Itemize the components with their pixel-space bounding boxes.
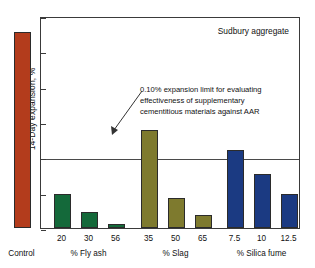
- x-axis-tick-label: 56: [111, 234, 120, 243]
- y-axis-tick: [41, 124, 46, 125]
- plot-area: Sudbury aggregate 0.10% expansion limit …: [40, 17, 300, 229]
- y-axis-tick: [41, 159, 46, 160]
- limit-annotation-text: 0.10% expansion limit for evaluating eff…: [140, 85, 315, 117]
- expansion-limit-line: [41, 159, 299, 160]
- x-axis-group-label: % Silica fume: [237, 249, 287, 258]
- x-axis-tick-label: 10: [257, 234, 266, 243]
- x-axis-group-label: Control: [8, 249, 34, 258]
- bar-12.5: [281, 194, 298, 228]
- aggregate-label: Sudbury aggregate: [218, 26, 289, 36]
- bar-7.5: [227, 150, 244, 228]
- x-axis-tick-label: 20: [57, 234, 66, 243]
- bar-10: [254, 174, 271, 228]
- bar-Control: [14, 32, 31, 228]
- bar-20: [54, 194, 71, 228]
- bar-65: [195, 215, 212, 228]
- expansion-bar-chart: 14-Day expansion, % Sudbury aggregate 0.…: [0, 0, 315, 268]
- x-axis-tick-label: 50: [171, 234, 180, 243]
- y-axis-tick: [41, 195, 46, 196]
- x-axis-group-label: % Fly ash: [71, 249, 107, 258]
- bar-56: [108, 224, 125, 228]
- x-axis-tick-label: 35: [144, 234, 153, 243]
- y-axis-tick: [41, 53, 46, 54]
- y-axis-tick: [41, 89, 46, 90]
- x-axis-tick-label: 12.5: [281, 234, 297, 243]
- x-axis-group-label: % Slag: [163, 249, 189, 258]
- x-axis-tick-label: 65: [198, 234, 207, 243]
- bar-35: [141, 130, 158, 228]
- bar-30: [81, 212, 98, 228]
- y-axis-tick: [41, 18, 46, 19]
- y-axis-tick: [41, 230, 46, 231]
- x-axis-tick-label: 30: [84, 234, 93, 243]
- x-axis-tick-label: 7.5: [229, 234, 240, 243]
- bar-50: [168, 198, 185, 228]
